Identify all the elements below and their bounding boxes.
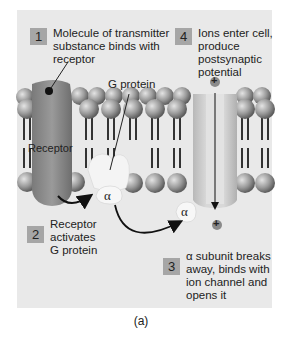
step-3: 3 α subunit breaks away, binds with ion …	[163, 250, 271, 302]
receptor-label: Receptor	[28, 142, 73, 154]
arrow-alpha-to-channel	[115, 205, 180, 233]
step-2-number: 2	[27, 226, 44, 243]
step-1: 1 Molecule of transmitter substance bind…	[30, 27, 169, 66]
step-3-number: 3	[163, 258, 180, 275]
step-4-number: 4	[175, 28, 192, 45]
step-2: 2 Receptor activates G protein	[27, 218, 97, 257]
alpha-bound-label: α	[104, 188, 111, 204]
step-4-text: Ions enter cell, produce postsynaptic po…	[198, 27, 273, 79]
ion-bottom-label: +	[213, 217, 219, 229]
transmitter-molecule	[45, 87, 53, 95]
step-3-text: α subunit breaks away, binds with ion ch…	[186, 250, 271, 302]
step-1-text: Molecule of transmitter substance binds …	[53, 27, 169, 66]
alpha-free-label: α	[181, 204, 188, 220]
ion-top-label: +	[211, 74, 217, 86]
figure-caption: (a)	[0, 314, 282, 328]
g-protein-label: G protein	[108, 78, 155, 90]
g-protein	[88, 154, 129, 191]
step-1-number: 1	[30, 28, 47, 45]
step-4: 4 Ions enter cell, produce postsynaptic …	[175, 27, 273, 79]
step-2-text: Receptor activates G protein	[50, 218, 97, 257]
